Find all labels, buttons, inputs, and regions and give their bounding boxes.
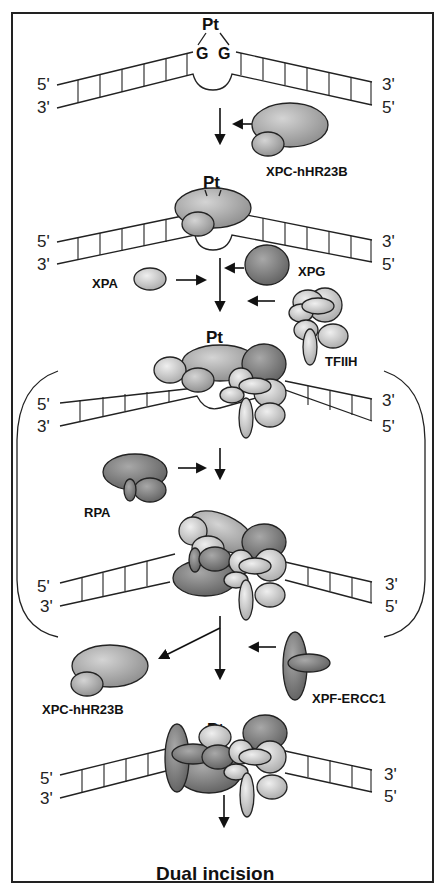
released-xpc-hhr23b <box>71 645 148 696</box>
xpg-protein <box>245 245 289 285</box>
five-prime-label: 5' <box>382 255 395 274</box>
five-prime-label: 5' <box>384 787 397 806</box>
three-prime-label: 3' <box>37 255 50 274</box>
release-arrow <box>160 628 220 658</box>
xpc-hhr23b-label: XPC-hHR23B <box>266 164 348 179</box>
xpf-ercc1-label: XPF-ERCC1 <box>312 691 386 706</box>
pt-label: Pt <box>202 15 219 34</box>
three-prime-label: 3' <box>382 232 395 251</box>
xpg-label: XPG <box>298 264 325 279</box>
three-prime-label: 3' <box>37 417 50 436</box>
rpa-label: RPA <box>84 505 111 520</box>
five-prime-label: 5' <box>37 395 50 414</box>
three-prime-label: 3' <box>384 765 397 784</box>
five-prime-label: 5' <box>382 417 395 436</box>
five-prime-label: 5' <box>385 597 398 616</box>
dna-step1: Pt G G 5' 3' 3' 5' <box>37 15 395 117</box>
three-prime-label: 3' <box>382 391 395 410</box>
five-prime-label: 5' <box>37 75 50 94</box>
five-prime-label: 5' <box>40 769 53 788</box>
five-prime-label: 5' <box>37 232 50 251</box>
five-prime-label: 5' <box>37 577 50 596</box>
rpa-protein <box>103 454 167 502</box>
xpc-hhr23b-protein <box>252 103 328 156</box>
guanine-label: G <box>218 45 230 62</box>
three-prime-label: 3' <box>40 789 53 808</box>
dna-step2: Pt 5' 3' 3' 5' <box>37 173 395 274</box>
xpa-protein <box>134 268 166 290</box>
dual-incision-label: Dual incision <box>156 863 274 884</box>
ner-pathway-diagram: Pt G G 5' 3' 3' 5' XPC-hHR23B Pt <box>0 0 440 895</box>
three-prime-label: 3' <box>40 597 53 616</box>
tfiih-label: TFIIH <box>325 354 358 369</box>
pt-label: Pt <box>206 328 223 347</box>
xpa-label: XPA <box>92 276 118 291</box>
dna-step5: Pt 5' 3' 3' 5' <box>40 715 397 817</box>
five-prime-label: 5' <box>382 98 395 117</box>
xpc-hhr23b-release-label: XPC-hHR23B <box>42 702 124 717</box>
hhr23b-protein <box>182 212 214 236</box>
three-prime-label: 3' <box>37 98 50 117</box>
guanine-label: G <box>196 45 208 62</box>
xpf-ercc1-complex <box>283 632 330 700</box>
three-prime-label: 3' <box>385 575 398 594</box>
three-prime-label: 3' <box>382 75 395 94</box>
